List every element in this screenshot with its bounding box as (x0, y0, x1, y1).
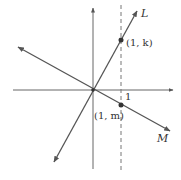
point-1-m (119, 103, 124, 108)
line-L (54, 11, 137, 162)
label-point-m: (1, m) (94, 110, 124, 121)
label-M: M (156, 132, 169, 145)
origin-point (91, 88, 95, 92)
point-1-k (119, 38, 124, 43)
label-x-tick-1: 1 (125, 91, 131, 102)
coordinate-diagram: L (1, k) 1 (1, m) M (0, 0, 181, 180)
label-L: L (140, 7, 148, 20)
label-point-k: (1, k) (126, 37, 153, 48)
